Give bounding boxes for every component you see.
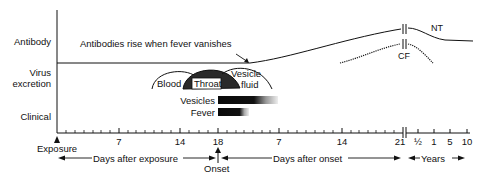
cf-label: CF <box>398 51 410 62</box>
fever-label: Fever <box>191 107 215 118</box>
row-label-virus-line2: excretion <box>12 78 51 89</box>
row-label-clinical: Clinical <box>20 111 51 122</box>
days-after-onset-label: Days after onset <box>273 153 342 164</box>
fever-bar <box>218 108 249 116</box>
blood-label: Blood <box>157 78 181 89</box>
infection-timeline-diagram: Antibody Virus excretion Clinical Antibo… <box>0 0 485 181</box>
annotation-arrowhead-icon <box>244 58 249 63</box>
cf-antibody-curve-rise <box>340 44 400 63</box>
onset-label: Onset <box>204 163 229 174</box>
tick-label: 14 <box>170 136 190 147</box>
tick-label: 21 <box>390 136 410 147</box>
vesicles-label: Vesicles <box>180 95 215 106</box>
vesicle-fluid-label-line1: Vesicle <box>231 68 261 79</box>
exposure-label: Exposure <box>37 143 77 154</box>
vesicle-fluid-label-line2: fluid <box>241 79 258 90</box>
tick-label: 10 <box>457 136 477 147</box>
tick-label: 18 <box>208 136 228 147</box>
arrow-right-icon <box>394 156 401 161</box>
years-label: Years <box>421 153 445 164</box>
row-label-antibody: Antibody <box>14 36 51 47</box>
throat-label: Throat <box>194 78 221 89</box>
onset-arrowhead-icon <box>215 147 221 153</box>
tick-label: 7 <box>269 136 289 147</box>
arrow-left-icon <box>221 156 228 161</box>
exposure-marker-icon <box>54 136 60 143</box>
tick-label: 14 <box>332 136 352 147</box>
vesicles-bar <box>218 96 278 104</box>
arrow-right-icon <box>209 156 216 161</box>
days-after-exposure-label: Days after exposure <box>93 153 178 164</box>
arrow-left-icon <box>58 156 65 161</box>
antibody-rise-annotation: Antibodies rise when fever vanishes <box>80 38 232 49</box>
tick-label: 7 <box>109 136 129 147</box>
cf-antibody-curve-decline <box>408 44 433 63</box>
row-label-virus-line1: Virus <box>30 67 51 78</box>
arrow-left-icon <box>408 156 415 161</box>
nt-label: NT <box>431 23 443 34</box>
arrow-right-icon <box>458 156 465 161</box>
